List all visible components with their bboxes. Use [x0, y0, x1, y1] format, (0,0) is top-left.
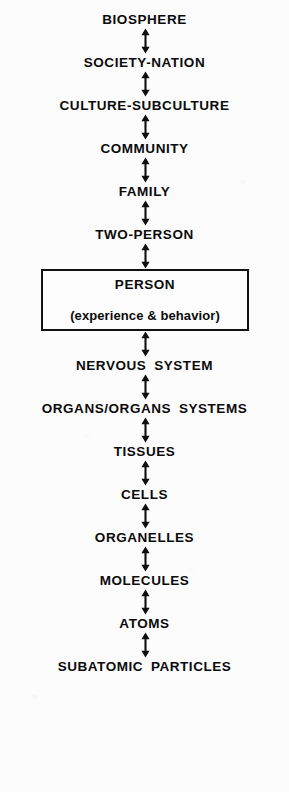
person-level-box: PERSON(experience & behavior): [41, 269, 249, 331]
person-box-sublabel: (experience & behavior): [70, 308, 220, 324]
level-label: ORGANS/ORGANS SYSTEMS: [0, 400, 289, 417]
double-headed-vertical-arrow-icon: [0, 374, 289, 400]
level-label: TWO-PERSON: [0, 226, 289, 243]
level-label: ORGANELLES: [0, 529, 289, 546]
double-headed-vertical-arrow-icon: [0, 71, 289, 97]
level-label: NERVOUS SYSTEM: [0, 357, 289, 374]
level-label: FAMILY: [0, 183, 289, 200]
double-headed-vertical-arrow-icon: [0, 157, 289, 183]
double-headed-vertical-arrow-icon: [0, 546, 289, 572]
double-headed-vertical-arrow-icon: [0, 200, 289, 226]
double-headed-vertical-arrow-icon: [0, 28, 289, 54]
level-label: BIOSPHERE: [0, 11, 289, 28]
double-headed-vertical-arrow-icon: [0, 632, 289, 658]
level-label: TISSUES: [0, 443, 289, 460]
level-label: COMMUNITY: [0, 140, 289, 157]
double-headed-vertical-arrow-icon: [0, 331, 289, 357]
level-label: ATOMS: [0, 615, 289, 632]
level-label: MOLECULES: [0, 572, 289, 589]
double-headed-vertical-arrow-icon: [0, 243, 289, 269]
level-label: CULTURE-SUBCULTURE: [0, 97, 289, 114]
systems-hierarchy-diagram: BIOSPHERESOCIETY-NATIONCULTURE-SUBCULTUR…: [0, 0, 289, 792]
double-headed-vertical-arrow-icon: [0, 114, 289, 140]
double-headed-vertical-arrow-icon: [0, 460, 289, 486]
double-headed-vertical-arrow-icon: [0, 589, 289, 615]
level-label: CELLS: [0, 486, 289, 503]
double-headed-vertical-arrow-icon: [0, 417, 289, 443]
level-label: SUBATOMIC PARTICLES: [0, 658, 289, 675]
figure-canvas: BIOSPHERESOCIETY-NATIONCULTURE-SUBCULTUR…: [0, 0, 289, 792]
person-box-title: PERSON: [115, 276, 175, 293]
level-label: SOCIETY-NATION: [0, 54, 289, 71]
double-headed-vertical-arrow-icon: [0, 503, 289, 529]
